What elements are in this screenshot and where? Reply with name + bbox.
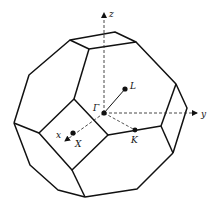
gamma-to-K-line — [104, 113, 135, 130]
x-axis — [65, 113, 104, 141]
y-axis-label: y — [200, 109, 207, 119]
K-point — [133, 128, 138, 133]
outline-right — [136, 42, 187, 153]
X-label: X — [74, 139, 82, 149]
polyhedron-edges — [14, 32, 187, 197]
gamma-label: Γ — [92, 103, 100, 113]
edge-right-inner-upper — [161, 84, 176, 126]
axes: z y x — [56, 9, 207, 141]
L-point — [122, 86, 127, 91]
outline-bottom — [85, 153, 173, 197]
gamma-point — [101, 110, 106, 115]
edge-top-to-front — [74, 49, 89, 99]
L-label: L — [129, 81, 136, 91]
K-label: K — [130, 135, 139, 145]
top-square-face — [70, 32, 136, 49]
x-axis-label: x — [56, 130, 61, 140]
edge-front-to-bottom — [72, 170, 85, 197]
brillouin-zone-diagram: z y x Γ L K X — [0, 0, 219, 208]
z-axis-label: z — [108, 9, 114, 19]
X-point — [70, 130, 75, 135]
edge-right-inner-lower — [161, 126, 173, 153]
gamma-to-L-line — [104, 89, 125, 113]
